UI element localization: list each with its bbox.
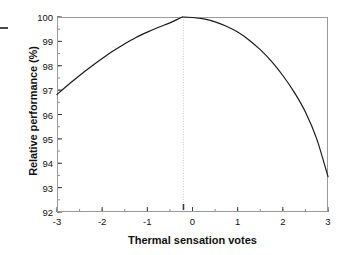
edge-artifact [0,27,8,29]
minor-tick-group [57,17,328,212]
y-tick-label: 97 [42,85,53,96]
y-tick-label: 94 [42,158,53,169]
y-axis-title: Relative performance (%) [27,21,39,201]
y-tick-label: 93 [42,182,53,193]
chart-figure: Relative performance (%) Thermal sensati… [0,0,342,255]
y-tick-label: 98 [42,60,53,71]
plot-svg [57,17,328,212]
data-curve [57,17,328,177]
y-tick-label: 100 [37,12,53,23]
x-axis-title: Thermal sensation votes [57,234,328,246]
x-tick-label: 2 [280,216,285,227]
x-tick-label: -3 [53,216,61,227]
x-tick-label: -2 [98,216,106,227]
plot-area: 9293949596979899100 -3-2-10123 [57,17,328,212]
x-tick-label: 3 [325,216,330,227]
plot-frame [58,18,328,212]
x-tick-label: 0 [190,216,195,227]
x-tick-label: -1 [143,216,151,227]
x-tick-label: 1 [235,216,240,227]
major-tick-group [57,17,328,212]
y-tick-label: 95 [42,133,53,144]
y-tick-label: 92 [42,207,53,218]
y-tick-label: 96 [42,109,53,120]
y-tick-label: 99 [42,36,53,47]
